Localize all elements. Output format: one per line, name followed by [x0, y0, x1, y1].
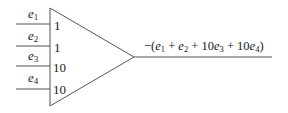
amplifier-diagram	[0, 0, 288, 113]
weight-1: 1	[54, 19, 61, 32]
weight-4: 10	[53, 83, 66, 96]
input-label-3: e3	[28, 49, 38, 64]
output-expression: −(e1 + e2 + 10e3 + 10e4)	[144, 40, 264, 54]
input-label-2: e2	[28, 29, 38, 44]
input-label-1: e1	[28, 7, 38, 22]
weight-3: 10	[53, 61, 66, 74]
input-label-4: e4	[28, 71, 38, 86]
weight-2: 1	[54, 41, 61, 54]
